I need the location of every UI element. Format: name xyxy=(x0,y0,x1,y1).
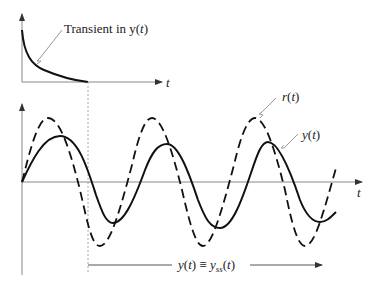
r-label: r(t) xyxy=(282,89,299,104)
y-leader-line xyxy=(284,134,298,148)
top-plot: t Transient in y(t) xyxy=(22,14,170,90)
diagram-canvas: t Transient in y(t) t r(t) y(t) y(t) ≡ y… xyxy=(0,0,382,292)
transient-leader-tick xyxy=(37,58,41,64)
top-t-axis-label: t xyxy=(166,75,170,90)
r-leader-line xyxy=(262,98,276,112)
bottom-plot: t r(t) y(t) y(t) ≡ yss(t) xyxy=(22,89,362,275)
transient-leader-line xyxy=(40,30,62,58)
bottom-t-axis-label: t xyxy=(357,185,361,200)
y-leader-tick xyxy=(281,145,284,148)
transient-curve xyxy=(22,30,88,82)
steady-state-label: y(t) ≡ yss(t) xyxy=(176,257,235,274)
r-leader-tick xyxy=(259,112,263,118)
y-label: y(t) xyxy=(300,127,320,142)
transient-annotation: Transient in y(t) xyxy=(64,21,148,36)
